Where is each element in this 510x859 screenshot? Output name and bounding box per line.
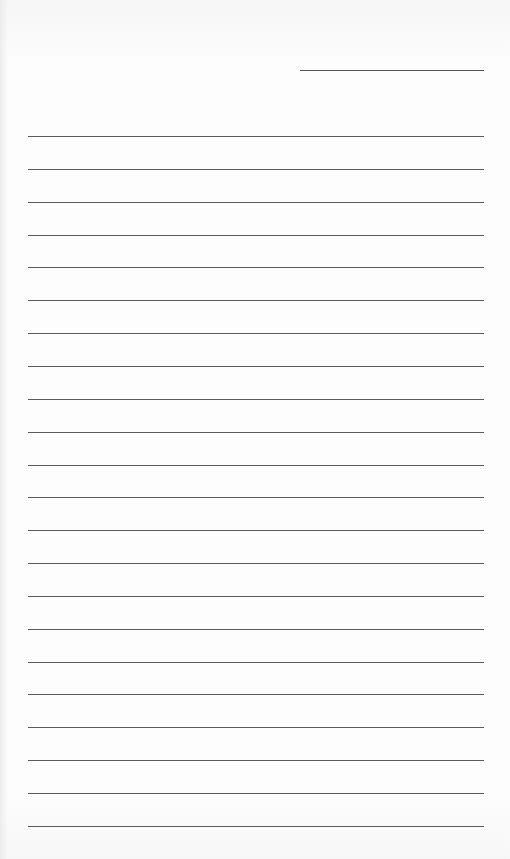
ruled-line xyxy=(28,662,484,663)
ruled-line xyxy=(28,235,484,236)
ruled-line xyxy=(28,300,484,301)
ruled-line xyxy=(28,530,484,531)
ruled-line xyxy=(28,169,484,170)
lined-paper-page xyxy=(0,0,510,859)
ruled-line xyxy=(28,136,484,137)
ruled-line xyxy=(28,727,484,728)
ruled-line xyxy=(28,432,484,433)
ruled-line xyxy=(28,563,484,564)
ruled-line xyxy=(28,694,484,695)
ruled-line xyxy=(28,465,484,466)
ruled-line xyxy=(28,629,484,630)
ruled-line xyxy=(28,267,484,268)
ruled-line xyxy=(28,596,484,597)
ruled-line xyxy=(28,366,484,367)
header-name-line xyxy=(300,70,484,71)
ruled-line xyxy=(28,333,484,334)
ruled-line xyxy=(28,793,484,794)
ruled-line xyxy=(28,760,484,761)
page-edge-shadow xyxy=(0,0,8,859)
ruled-line xyxy=(28,497,484,498)
ruled-line xyxy=(28,399,484,400)
ruled-line xyxy=(28,826,484,827)
ruled-line xyxy=(28,202,484,203)
